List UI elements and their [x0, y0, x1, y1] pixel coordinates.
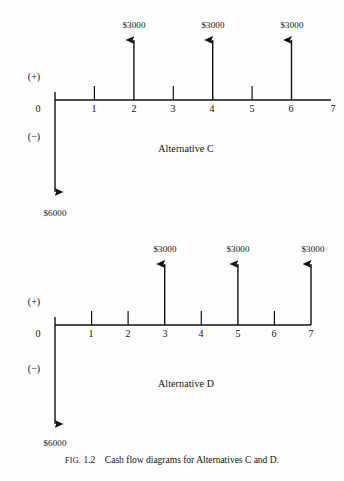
negative-axis-sign-c: (−): [28, 131, 41, 142]
tick-label-d-2: 2: [125, 328, 130, 339]
diagram-title-c: Alternative C: [158, 143, 213, 154]
inflow-amount-label-c-year4: $3000: [202, 20, 225, 30]
tick-label-d-0: 0: [35, 328, 40, 339]
positive-axis-sign-c: (+): [28, 71, 41, 82]
tick-label-c-1: 1: [91, 103, 96, 114]
tick-label-d-1: 1: [88, 328, 93, 339]
tick-label-d-7: 7: [308, 328, 313, 339]
outflow-amount-label-d: $6000: [44, 438, 67, 448]
inflow-amount-label-c-year6: $3000: [281, 20, 304, 30]
diagram-d-group: [55, 264, 311, 424]
tick-label-c-6: 6: [288, 103, 293, 114]
tick-label-d-5: 5: [235, 328, 240, 339]
positive-axis-sign-d: (+): [28, 296, 41, 307]
tick-label-d-4: 4: [198, 328, 203, 339]
figure-caption-tag: FIG.: [65, 456, 81, 465]
tick-label-c-3: 3: [170, 103, 175, 114]
inflow-amount-label-c-year2: $3000: [123, 20, 146, 30]
tick-label-d-3: 3: [162, 328, 167, 339]
tick-label-c-2: 2: [131, 103, 136, 114]
negative-axis-sign-d: (−): [28, 363, 41, 374]
inflow-amount-label-d-year5: $3000: [227, 244, 250, 254]
tick-label-c-0: 0: [35, 103, 40, 114]
diagram-c-group: [55, 40, 331, 192]
figure-caption-number: 1.2: [83, 455, 95, 465]
figure-container: $3000 $3000 $3000 (+) (−) 0 1 2 3 4 5 6 …: [0, 0, 344, 481]
tick-label-c-5: 5: [249, 103, 254, 114]
diagram-title-d: Alternative D: [158, 378, 214, 389]
figure-caption-text: Cash flow diagrams for Alternatives C an…: [105, 455, 279, 465]
outflow-amount-label-c: $6000: [44, 208, 67, 218]
inflow-amount-label-d-year3: $3000: [154, 244, 177, 254]
tick-label-c-7: 7: [330, 103, 335, 114]
tick-label-d-6: 6: [271, 328, 276, 339]
tick-label-c-4: 4: [209, 103, 214, 114]
inflow-amount-label-d-year7: $3000: [302, 244, 325, 254]
figure-caption: FIG. 1.2 Cash flow diagrams for Alternat…: [0, 455, 344, 465]
cashflow-diagram-svg: [0, 0, 344, 481]
